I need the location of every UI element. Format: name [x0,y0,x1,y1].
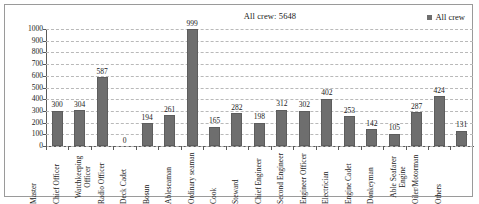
bar[interactable] [231,113,242,146]
bar-value-label: 142 [366,120,377,128]
y-axis-tick-label: 100 [32,131,43,139]
x-axis-category-label: Second Engineer [277,150,286,204]
x-axis-category-label: Able Seafarer Engine [390,150,407,204]
bar-slot[interactable]: 261 [158,29,180,146]
bar-slot[interactable]: 194 [136,29,158,146]
bar-value-label: 198 [254,113,265,121]
y-axis-tick-label: 300 [32,107,43,115]
y-axis-tick-label: 1000 [28,25,43,33]
bar-value-label: 424 [434,87,445,95]
bar-slot[interactable]: 304 [68,29,90,146]
bar-value-label: 131 [456,121,467,129]
y-axis-tick-label: 800 [32,49,43,57]
bar-value-label: 0 [123,137,127,145]
bar[interactable] [142,123,153,146]
x-axis-category-label: Watchkeeping Officer [75,150,92,204]
legend-label: All crew [435,12,465,22]
bar-value-label: 105 [389,124,400,132]
bar[interactable] [389,134,400,146]
y-axis-tick-label: 400 [32,95,43,103]
bar[interactable] [456,131,467,146]
bar-series: 3003045870194261999165282198312302402253… [46,29,473,146]
x-axis-category-label: Cook [210,150,219,204]
x-axis-category-label: Radio Officer [98,150,107,204]
plot-area: 01002003004005006007008009001000 3003045… [46,29,473,146]
bar[interactable] [74,110,85,146]
x-axis-category-label: Master [30,150,39,204]
bar-slot[interactable]: 287 [406,29,428,146]
bar[interactable] [52,111,63,146]
bar[interactable] [299,111,310,146]
bar[interactable] [321,99,332,146]
bar-value-label: 304 [74,101,85,109]
x-axis-category-label: Electrician [322,150,331,204]
bar-slot[interactable]: 424 [428,29,450,146]
bar-slot[interactable]: 302 [293,29,315,146]
bar-value-label: 587 [97,68,108,76]
bar-slot[interactable]: 131 [450,29,472,146]
bar-slot[interactable]: 0 [113,29,135,146]
y-axis-tick-label: 700 [32,60,43,68]
bar[interactable] [411,112,422,146]
bar-value-label: 999 [186,20,197,28]
x-axis-category-label: Steward [232,150,241,204]
bar-slot[interactable]: 142 [361,29,383,146]
x-axis-line [46,146,474,147]
bar[interactable] [164,115,175,146]
bar-slot[interactable]: 198 [248,29,270,146]
y-axis-tick-label: 600 [32,72,43,80]
chart-title: All crew: 5648 [205,11,335,21]
x-axis-category-label: Deck Cadet [120,150,129,204]
bar-slot[interactable]: 312 [271,29,293,146]
y-axis-tick-label: 500 [32,84,43,92]
bar-value-label: 302 [299,101,310,109]
bar-value-label: 312 [276,100,287,108]
x-axis-category-label: Others [435,150,444,204]
bar-slot[interactable]: 105 [383,29,405,146]
x-axis-category-label: Chief Officer [53,150,62,204]
y-axis-tick-label: 900 [32,37,43,45]
bar-slot[interactable]: 300 [46,29,68,146]
bar[interactable] [254,123,265,146]
bar[interactable] [366,129,377,146]
bar[interactable] [434,96,445,146]
x-axis-category-label: Engineer Officer [300,150,309,204]
x-axis-category-label: Ableseaman [165,150,174,204]
bar-value-label: 300 [52,101,63,109]
bar-slot[interactable]: 999 [181,29,203,146]
x-axis-category-labels: MasterChief OfficerWatchkeeping OfficerR… [46,150,473,204]
bar-slot[interactable]: 587 [91,29,113,146]
y-axis-tick-label: 0 [39,142,43,150]
x-axis-category-label: Donkeyman [367,150,376,204]
bar[interactable] [209,127,220,146]
bar-slot[interactable]: 165 [203,29,225,146]
bar-value-label: 261 [164,106,175,114]
bar[interactable] [97,77,108,146]
bar[interactable] [187,29,198,146]
bar-slot[interactable]: 253 [338,29,360,146]
x-axis-category-label: Oiler/Motorman [412,150,421,204]
bar-slot[interactable]: 402 [316,29,338,146]
bar-value-label: 194 [141,114,152,122]
bar[interactable] [276,110,287,147]
legend-swatch-icon [427,15,432,20]
bar-value-label: 402 [321,89,332,97]
category-slot[interactable]: Others [450,150,472,204]
bar-value-label: 253 [344,107,355,115]
x-axis-category-label: Chief Engineer [255,150,264,204]
bar-value-label: 165 [209,117,220,125]
x-axis-category-label: Engine Cadet [345,150,354,204]
x-axis-category-label: Ordinary seaman [188,150,197,204]
bar[interactable] [344,116,355,146]
chart-container: All crew: 5648 All crew 0100200300400500… [4,4,473,197]
bar-value-label: 282 [231,104,242,112]
bar-slot[interactable]: 282 [226,29,248,146]
chart-legend: All crew [427,12,465,22]
x-axis-category-label: Bosun [143,150,152,204]
y-axis-tick-label: 200 [32,119,43,127]
bar-value-label: 287 [411,103,422,111]
